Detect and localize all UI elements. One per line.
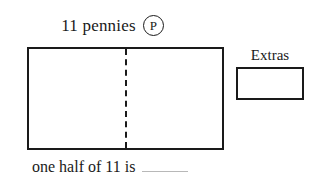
extras-box[interactable] [236, 67, 304, 100]
extras-group: Extras [236, 48, 304, 100]
circled-letter-p-icon: P [143, 15, 164, 36]
dashed-divider-line [125, 49, 127, 148]
extras-label: Extras [236, 48, 304, 63]
answer-blank-input[interactable] [142, 159, 188, 172]
main-rectangle-right-half[interactable] [126, 49, 223, 148]
page-title: 11 pennies [61, 17, 136, 34]
worksheet-title: 11 pennies P [0, 11, 225, 39]
worksheet-canvas: 11 pennies P Extras one half of 11 is [0, 0, 313, 182]
main-rectangle-left-half[interactable] [29, 49, 126, 148]
main-rectangle[interactable] [27, 47, 224, 150]
prompt-row: one half of 11 is [32, 159, 188, 175]
prompt-text: one half of 11 is [32, 159, 135, 175]
